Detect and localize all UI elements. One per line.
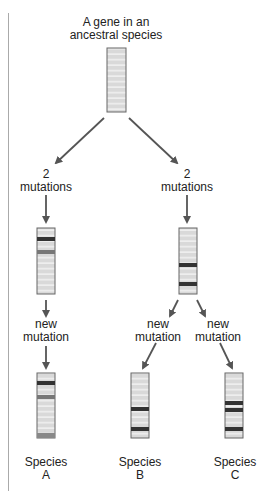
gene-bar-ancestral	[107, 48, 126, 112]
gene-bar-species-b	[131, 373, 149, 438]
gene-bar-right-2-mutations	[179, 228, 197, 294]
gene-bar-left-2-mutations	[37, 228, 55, 294]
gene-bar-species-a	[37, 373, 55, 438]
diagram-graphics	[0, 0, 267, 498]
gene-bar-species-c	[225, 373, 243, 438]
